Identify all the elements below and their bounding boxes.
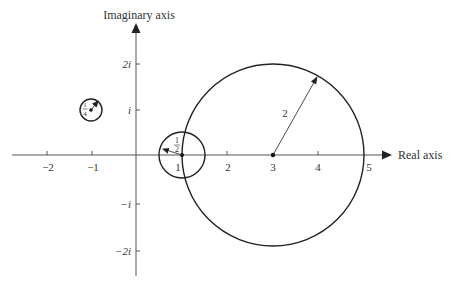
x-tick-label: 4 xyxy=(315,161,321,173)
diagram-canvas: Real axis Imaginary axis −2 −1 1 2 3 4 5 xyxy=(0,0,451,289)
x-tick-label: −2 xyxy=(42,161,54,173)
real-axis-title: Real axis xyxy=(398,148,443,162)
radius-arrow-icon xyxy=(91,101,98,110)
complex-plane-diagram: Real axis Imaginary axis −2 −1 1 2 3 4 5 xyxy=(0,0,451,289)
radius-label-denominator: 2 xyxy=(175,145,179,154)
x-tick-label: 5 xyxy=(366,161,372,173)
imaginary-axis-title: Imaginary axis xyxy=(103,8,175,22)
y-ticks xyxy=(136,64,140,251)
x-tick-label: 2 xyxy=(225,161,231,173)
real-axis-arrow-icon xyxy=(382,151,392,160)
radius-arrow-icon xyxy=(273,77,317,155)
y-tick-label: −2i xyxy=(115,245,131,257)
radius-label: 2 xyxy=(282,107,288,119)
radius-arrow-icon xyxy=(163,149,182,155)
circle-center-minus1-plus-i: 1 4 xyxy=(80,99,102,121)
radius-label-numerator: 1 xyxy=(83,101,87,109)
y-tick-label: 2i xyxy=(122,58,131,70)
radius-label-numerator: 1 xyxy=(175,136,179,145)
x-tick-label: 3 xyxy=(270,161,276,173)
x-tick-label: −1 xyxy=(87,161,99,173)
x-tick-label: 1 xyxy=(175,161,181,173)
y-tick-label: −i xyxy=(121,198,131,210)
y-tick-label: i xyxy=(128,104,131,116)
imaginary-axis: Imaginary axis xyxy=(103,8,175,276)
radius-label-denominator: 4 xyxy=(83,110,87,118)
imaginary-axis-arrow-icon xyxy=(132,23,141,33)
